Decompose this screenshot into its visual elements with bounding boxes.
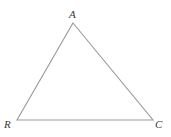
vertex-label-a: A: [69, 9, 76, 20]
triangle-shape: [0, 0, 171, 137]
vertex-label-r: R: [4, 119, 11, 130]
triangle-arc-outline: [17, 23, 153, 120]
geometry-figure: A R C: [0, 0, 171, 137]
vertex-label-c: C: [155, 119, 162, 130]
